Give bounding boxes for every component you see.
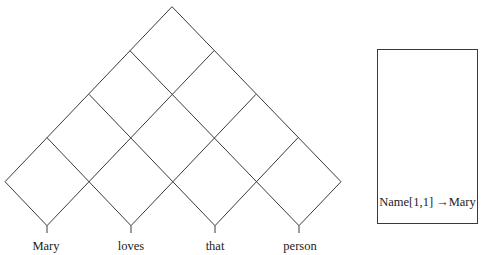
word-label-1: Mary	[32, 239, 60, 253]
chart-grid-lines	[5, 7, 341, 226]
word-ticks	[47, 226, 299, 233]
chart-entry-panel: Name[1,1] →Mary	[377, 49, 478, 224]
arrow-right-icon: →	[436, 195, 449, 209]
word-label-2: loves	[118, 239, 145, 253]
entry-value: Mary	[449, 195, 476, 209]
entry-name: Name[1,1]	[379, 195, 433, 209]
chart-entry: Name[1,1] →Mary	[378, 195, 477, 210]
word-label-4: person	[283, 239, 317, 253]
word-label-3: that	[206, 239, 225, 253]
